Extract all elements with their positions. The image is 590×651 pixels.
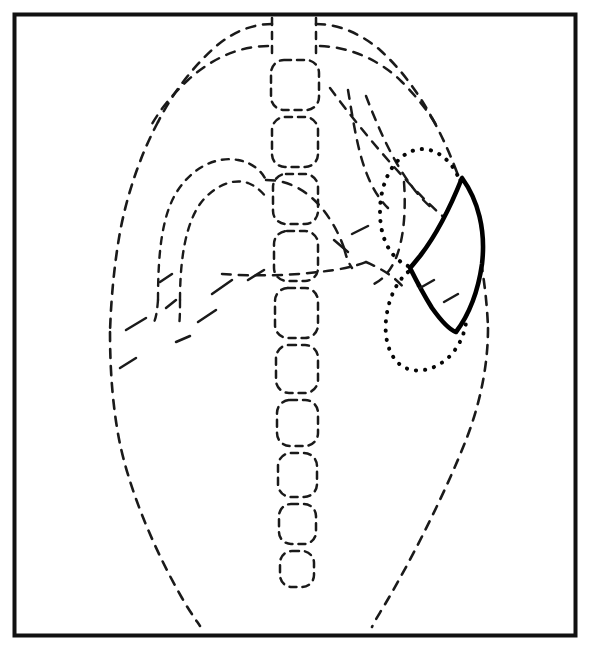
vertebra-7 xyxy=(277,400,318,446)
vertebra-10 xyxy=(280,551,314,587)
anatomical-diagram-svg: Chest radiograph schematic diagram Line … xyxy=(0,0,590,651)
lesion-outline[interactable] xyxy=(410,178,483,332)
vertebra-1 xyxy=(271,60,319,110)
diaphragm-mark-left-3 xyxy=(176,336,190,342)
diaphragm-marks xyxy=(120,310,216,368)
mediastinum-upper-right xyxy=(266,180,344,248)
vertebra-6 xyxy=(276,345,318,393)
right-cardiophrenic-line xyxy=(366,262,404,288)
vertebra-8 xyxy=(278,453,317,497)
thoracic-spine xyxy=(271,18,319,587)
right-upper-mediastinal-line xyxy=(348,90,388,208)
lesion[interactable] xyxy=(410,178,483,332)
cardiac-inner-mark-3 xyxy=(212,280,232,294)
panel-border xyxy=(15,15,576,636)
left-costophrenic-mark-3 xyxy=(160,274,172,282)
left-costophrenic-mark-1 xyxy=(126,318,146,330)
diaphragm-mark-left-1 xyxy=(198,310,216,322)
vertebra-9 xyxy=(279,504,316,544)
figure-container: Chest radiograph schematic diagram Line … xyxy=(0,0,590,651)
body-outline-left-upper xyxy=(110,122,158,332)
body-outline-right-lower xyxy=(372,328,488,627)
mediastinal-body xyxy=(212,180,368,294)
body-outline-left-lower xyxy=(110,332,200,626)
left-heart-inner-descending xyxy=(179,300,180,326)
body-outline-left-apex xyxy=(158,24,272,122)
body-outline-right-apex xyxy=(316,24,432,118)
vertebra-3 xyxy=(273,174,318,224)
left-heart-border-descending xyxy=(152,300,158,326)
aortic-arch-inner xyxy=(180,181,268,300)
vertebra-2 xyxy=(272,117,318,167)
diaphragm-mark-left-2 xyxy=(120,358,136,368)
cardiac-base-line xyxy=(222,262,366,275)
left-costophrenic-mark-2 xyxy=(166,300,176,308)
right-hilar-inner-line xyxy=(374,182,405,284)
clavicle-right xyxy=(320,46,438,128)
clavicle-left xyxy=(152,46,268,124)
cardiac-inner-mark-2 xyxy=(352,226,368,234)
vertebra-5 xyxy=(275,288,318,338)
clavicle-lines xyxy=(152,46,438,128)
body-outline xyxy=(110,24,488,627)
left-mediastinal-border xyxy=(126,159,268,330)
